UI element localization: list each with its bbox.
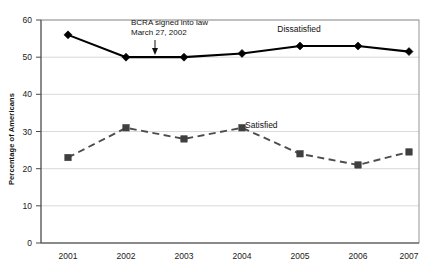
- data-point-satisfied-2006: [355, 162, 361, 168]
- y-axis-title: Percentage of Americans: [7, 93, 16, 185]
- x-tick-label-2004: 2004: [233, 251, 252, 261]
- y-tick-label-0: 0: [27, 238, 32, 248]
- data-point-satisfied-2001: [65, 154, 71, 160]
- data-point-satisfied-2003: [181, 136, 187, 142]
- x-tick-label-2006: 2006: [349, 251, 368, 261]
- x-tick-label-2007: 2007: [400, 251, 419, 261]
- y-tick-label-30: 30: [23, 127, 33, 137]
- x-tick-label-2003: 2003: [175, 251, 194, 261]
- annotation-line-2: March 27, 2002: [131, 28, 187, 37]
- series-label-dissatisfied: Dissatisfied: [277, 24, 321, 34]
- annotation-line-1: BCRA signed into law: [131, 18, 208, 27]
- y-tick-label-50: 50: [23, 52, 33, 62]
- data-point-satisfied-2005: [297, 151, 303, 157]
- chart-container: 60 50 40 30 20 10 0 Percentage of Americ…: [0, 0, 442, 276]
- data-point-satisfied-2007: [406, 149, 412, 155]
- y-tick-label-10: 10: [23, 201, 33, 211]
- data-point-satisfied-2002: [123, 125, 129, 131]
- y-tick-label-20: 20: [23, 164, 33, 174]
- chart-background: [0, 0, 442, 276]
- y-tick-label-40: 40: [23, 89, 33, 99]
- y-tick-label-60: 60: [23, 15, 33, 25]
- x-tick-label-2002: 2002: [117, 251, 136, 261]
- x-tick-label-2005: 2005: [291, 251, 310, 261]
- x-tick-label-2001: 2001: [59, 251, 78, 261]
- series-label-satisfied: Satisfied: [245, 120, 278, 130]
- line-chart: 60 50 40 30 20 10 0 Percentage of Americ…: [0, 0, 442, 276]
